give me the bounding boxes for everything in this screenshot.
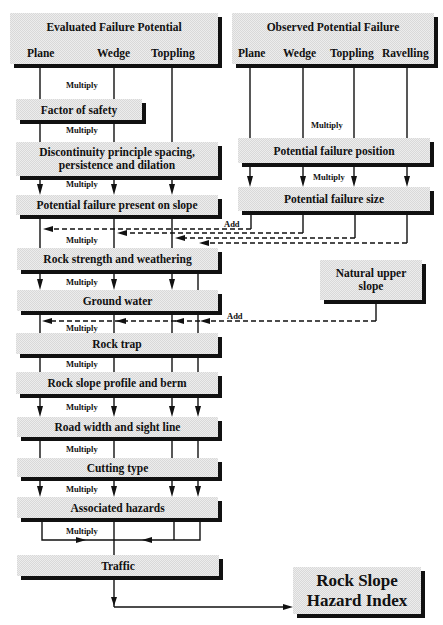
result-line2: Hazard Index bbox=[293, 591, 421, 611]
result-line1: Rock Slope bbox=[293, 571, 421, 591]
discontinuity-label-line1: Discontinuity principle spacing, bbox=[16, 146, 218, 159]
factor-of-safety-label: Factor of safety bbox=[16, 103, 142, 116]
traffic-label: Traffic bbox=[17, 559, 219, 572]
observed-col-plane: Plane bbox=[238, 47, 265, 60]
rock-trap-box: Rock trap bbox=[16, 333, 218, 354]
multiply-label: Multiply bbox=[311, 120, 343, 130]
observed-title: Observed Potential Failure bbox=[232, 21, 434, 34]
discontinuity-to-present-arrows bbox=[37, 177, 175, 195]
ground-water-box: Ground water bbox=[17, 290, 218, 311]
discontinuity-label-line2: persistence and dilation bbox=[16, 159, 218, 172]
evaluated-failure-potential-box: Evaluated Failure Potential Plane Wedge … bbox=[10, 13, 218, 64]
multiply-label: Multiply bbox=[66, 526, 98, 536]
rock-trap-label: Rock trap bbox=[16, 337, 218, 350]
discontinuity-box: Discontinuity principle spacing, persist… bbox=[16, 142, 218, 176]
rock-strength-to-ground-water-arrows bbox=[37, 271, 198, 290]
multiply-label: Multiply bbox=[66, 277, 98, 287]
traffic-box: Traffic bbox=[17, 555, 219, 576]
factor-of-safety-box: Factor of safety bbox=[16, 99, 142, 120]
multiply-label: Multiply bbox=[66, 359, 98, 369]
natural-upper-slope-label: Natural upper slope bbox=[320, 267, 422, 293]
ground-water-to-rock-trap-lines bbox=[40, 312, 198, 333]
potential-failure-present-label: Potential failure present on slope bbox=[16, 199, 218, 212]
rock-slope-hazard-index-label: Rock Slope Hazard Index bbox=[293, 571, 421, 611]
potential-failure-present-box: Potential failure present on slope bbox=[16, 195, 218, 215]
multiply-label: Multiply bbox=[66, 179, 98, 189]
road-to-cutting-lines bbox=[40, 438, 198, 458]
multiply-label: Multiply bbox=[66, 235, 98, 245]
add-label: Add bbox=[224, 219, 240, 229]
observed-potential-failure-box: Observed Potential Failure Plane Wedge T… bbox=[232, 13, 434, 64]
cutting-to-associated-arrows bbox=[37, 478, 201, 497]
present-to-rock-strength-lines bbox=[40, 216, 172, 248]
potential-failure-size-box: Potential failure size bbox=[238, 187, 430, 211]
rock-trap-to-profile-lines bbox=[40, 355, 198, 372]
potential-failure-size-label: Potential failure size bbox=[238, 193, 430, 206]
multiply-label: Multiply bbox=[66, 444, 98, 454]
associated-hazards-box: Associated hazards bbox=[17, 497, 218, 518]
multiply-label: Multiply bbox=[66, 402, 98, 412]
add-label: Add bbox=[227, 311, 243, 321]
multiply-label: Multiply bbox=[66, 80, 98, 90]
natural-upper-slope-line1: Natural upper bbox=[320, 267, 422, 280]
associated-hazards-label: Associated hazards bbox=[17, 501, 218, 514]
multiply-label: Multiply bbox=[66, 125, 98, 135]
traffic-to-result-arrow bbox=[111, 577, 293, 610]
evaluated-col-wedge: Wedge bbox=[97, 47, 130, 60]
rock-slope-hazard-index-box: Rock Slope Hazard Index bbox=[293, 567, 421, 614]
associated-merge-lines bbox=[42, 519, 200, 555]
evaluated-title: Evaluated Failure Potential bbox=[10, 21, 218, 34]
profile-to-road-arrows bbox=[37, 395, 201, 417]
road-width-box: Road width and sight line bbox=[17, 417, 218, 437]
multiply-label: Multiply bbox=[66, 323, 98, 333]
potential-failure-position-label: Potential failure position bbox=[238, 144, 430, 157]
discontinuity-label: Discontinuity principle spacing, persist… bbox=[16, 146, 218, 172]
natural-upper-slope-box: Natural upper slope bbox=[320, 260, 422, 300]
observed-col-wedge: Wedge bbox=[283, 47, 316, 60]
observed-col-toppling: Toppling bbox=[330, 47, 374, 60]
cutting-type-box: Cutting type bbox=[17, 458, 218, 477]
cutting-type-label: Cutting type bbox=[17, 461, 218, 474]
ground-water-label: Ground water bbox=[17, 294, 218, 307]
rock-strength-label: Rock strength and weathering bbox=[17, 253, 218, 266]
potential-failure-position-box: Potential failure position bbox=[238, 138, 430, 163]
rock-slope-profile-label: Rock slope profile and berm bbox=[16, 377, 218, 390]
evaluated-col-plane: Plane bbox=[27, 47, 54, 60]
evaluated-col-toppling: Toppling bbox=[151, 47, 195, 60]
rock-strength-box: Rock strength and weathering bbox=[17, 248, 218, 270]
multiply-label: Multiply bbox=[66, 484, 98, 494]
observed-col-ravelling: Ravelling bbox=[382, 47, 429, 60]
rock-slope-profile-box: Rock slope profile and berm bbox=[16, 372, 218, 394]
multiply-label: Multiply bbox=[313, 172, 345, 182]
road-width-label: Road width and sight line bbox=[17, 421, 218, 434]
natural-upper-slope-line2: slope bbox=[320, 280, 422, 293]
